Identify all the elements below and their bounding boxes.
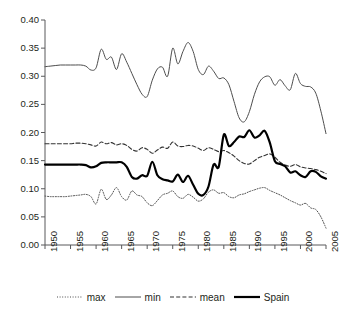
x-axis-tick-label: 1960 (100, 231, 110, 252)
legend-item-min[interactable]: min (115, 292, 161, 303)
y-axis-ticks (41, 20, 45, 245)
legend-label-min: min (145, 292, 161, 303)
series-line-mean (45, 142, 326, 174)
x-axis-tick-label: 1970 (151, 231, 161, 252)
x-axis-tick-label: 2005 (330, 231, 340, 252)
legend-label-spain: Spain (264, 292, 290, 303)
y-axis-tick-label: 0.00 (5, 240, 39, 250)
x-axis-tick-label: 1980 (202, 231, 212, 252)
x-axis-tick-label: 1955 (75, 231, 85, 252)
y-axis-tick-label: 0.15 (5, 156, 39, 166)
legend-swatch-max (57, 293, 83, 301)
line-chart: 0.000.050.100.150.200.250.300.350.40 195… (0, 0, 346, 313)
series-line-min (45, 43, 326, 134)
series-line-max (45, 188, 326, 229)
legend-label-max: max (87, 292, 106, 303)
y-axis-tick-label: 0.10 (5, 184, 39, 194)
y-axis-tick-label: 0.25 (5, 99, 39, 109)
y-axis-tick-label: 0.35 (5, 43, 39, 53)
y-axis-tick-label: 0.30 (5, 71, 39, 81)
x-axis-tick-label: 1985 (228, 231, 238, 252)
plot-area (0, 0, 346, 313)
y-axis-tick-label: 0.40 (5, 15, 39, 25)
x-axis-tick-label: 2000 (304, 231, 314, 252)
legend-label-mean: mean (200, 292, 225, 303)
series-line-spain (45, 130, 326, 195)
axes (45, 20, 326, 245)
x-axis-tick-label: 1950 (49, 231, 59, 252)
legend-item-mean[interactable]: mean (170, 292, 225, 303)
x-axis-tick-label: 1995 (279, 231, 289, 252)
x-axis-tick-label: 1965 (126, 231, 136, 252)
y-axis-tick-label: 0.20 (5, 128, 39, 138)
y-axis-tick-label: 0.05 (5, 212, 39, 222)
legend-swatch-min (115, 293, 141, 301)
x-axis-tick-label: 1975 (177, 231, 187, 252)
chart-legend: maxminmeanSpain (0, 286, 346, 308)
x-axis-tick-label: 1990 (253, 231, 263, 252)
legend-swatch-mean (170, 293, 196, 301)
legend-item-max[interactable]: max (57, 292, 106, 303)
legend-swatch-spain (234, 293, 260, 301)
data-series-group (45, 43, 326, 229)
legend-item-spain[interactable]: Spain (234, 292, 290, 303)
